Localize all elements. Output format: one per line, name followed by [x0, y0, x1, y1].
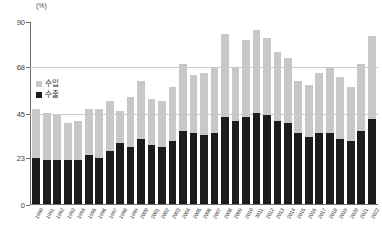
bar-column [294, 22, 302, 204]
bar-segment-export [53, 160, 61, 204]
bar-column [148, 22, 156, 204]
x-axis-tick-label: 2011 [254, 207, 265, 219]
bar-segment-import [116, 111, 124, 143]
bar-column [347, 22, 355, 204]
bar-segment-import [253, 30, 261, 113]
x-axis-tick-label: 1999 [128, 207, 139, 220]
x-axis-tick-label: 1993 [65, 207, 76, 220]
bar-column [169, 22, 177, 204]
bar-segment-import [221, 34, 229, 117]
bar-segment-import [148, 99, 156, 146]
bar-segment-export [336, 139, 344, 204]
x-axis-tick-label: 2014 [285, 207, 296, 220]
y-axis-tick-label: 0 [21, 201, 25, 210]
bar-segment-export [85, 155, 93, 204]
bar-segment-import [137, 81, 145, 140]
bar-segment-import [53, 115, 61, 159]
bar-column [336, 22, 344, 204]
x-axis-tick-label: 2005 [191, 207, 202, 220]
bar-segment-export [64, 160, 72, 204]
bar-segment-import [284, 58, 292, 123]
legend-label-export: 수출 [45, 90, 59, 99]
bar-column [85, 22, 93, 204]
bar-column [53, 22, 61, 204]
bar-column [274, 22, 282, 204]
bar-segment-export [357, 131, 365, 204]
bar-column [263, 22, 271, 204]
bar-column [74, 22, 82, 204]
x-axis-tick-label: 1998 [118, 207, 129, 220]
tick-mark [26, 22, 30, 23]
legend-item-export: 수출 [36, 90, 59, 99]
x-axis-labels: 1990199119921993199419951996199719981999… [31, 207, 379, 242]
x-axis-tick-label: 2022 [369, 207, 380, 220]
bar-segment-export [116, 143, 124, 204]
x-axis-tick-label: 1992 [55, 207, 66, 220]
bar-segment-import [294, 81, 302, 134]
bar-segment-import [232, 67, 240, 122]
x-axis-tick-label: 1996 [97, 207, 108, 220]
bar-segment-import [127, 97, 135, 148]
bar-segment-export [74, 160, 82, 204]
bar-segment-export [137, 139, 145, 204]
bar-segment-export [221, 117, 229, 204]
x-axis-tick-label: 2002 [159, 207, 170, 220]
x-axis-tick-label: 2021 [359, 207, 370, 220]
bar-segment-import [169, 87, 177, 142]
bar-column [315, 22, 323, 204]
bar-segment-export [263, 115, 271, 204]
bar-column [284, 22, 292, 204]
bar-segment-export [200, 135, 208, 204]
bar-segment-import [211, 67, 219, 134]
bar-segment-export [253, 113, 261, 204]
bar-segment-export [294, 133, 302, 204]
bar-column [106, 22, 114, 204]
bar-segment-import [242, 40, 250, 117]
x-axis-tick-label: 1994 [76, 207, 87, 220]
bar-segment-import [158, 101, 166, 148]
bar-segment-export [315, 133, 323, 204]
x-axis-tick-label: 2000 [139, 207, 150, 220]
bar-column [221, 22, 229, 204]
bar-segment-export [169, 141, 177, 204]
bar-segment-import [315, 73, 323, 134]
x-axis-tick-label: 2017 [317, 207, 328, 220]
bar-segment-export [232, 121, 240, 204]
bar-segment-import [85, 109, 93, 156]
bar-column [64, 22, 72, 204]
legend-swatch-export-icon [36, 92, 42, 98]
tick-mark [26, 114, 30, 115]
bar-segment-export [368, 119, 376, 204]
bar-segment-export [32, 158, 40, 205]
bar-segment-import [357, 64, 365, 131]
bar-segment-import [274, 52, 282, 121]
bar-column [242, 22, 250, 204]
bar-column [200, 22, 208, 204]
legend-swatch-import-icon [36, 81, 42, 87]
bar-segment-import [95, 109, 103, 158]
y-axis-tick-label: 68 [17, 62, 25, 71]
bar-series-group [31, 22, 378, 204]
x-axis-tick-label: 2004 [180, 207, 191, 220]
bar-column [179, 22, 187, 204]
x-axis-tick-label: 2003 [170, 207, 181, 220]
bar-segment-import [326, 67, 334, 134]
y-axis-tick-label: 90 [17, 18, 25, 27]
bar-segment-export [179, 131, 187, 204]
bar-column [232, 22, 240, 204]
bar-column [158, 22, 166, 204]
x-axis-tick-label: 2007 [212, 207, 223, 220]
bar-segment-export [284, 123, 292, 204]
chart-legend: 수입 수출 [36, 79, 59, 99]
bar-segment-export [127, 147, 135, 204]
legend-label-import: 수입 [45, 79, 59, 88]
bar-segment-import [74, 121, 82, 159]
bar-segment-import [32, 109, 40, 158]
x-axis-tick-label: 2012 [264, 207, 275, 220]
x-axis-tick-label: 1990 [34, 207, 45, 220]
tick-mark [26, 158, 30, 159]
bar-segment-import [179, 64, 187, 131]
bar-segment-export [43, 160, 51, 204]
bar-column [211, 22, 219, 204]
x-axis-tick-label: 2013 [275, 207, 286, 220]
